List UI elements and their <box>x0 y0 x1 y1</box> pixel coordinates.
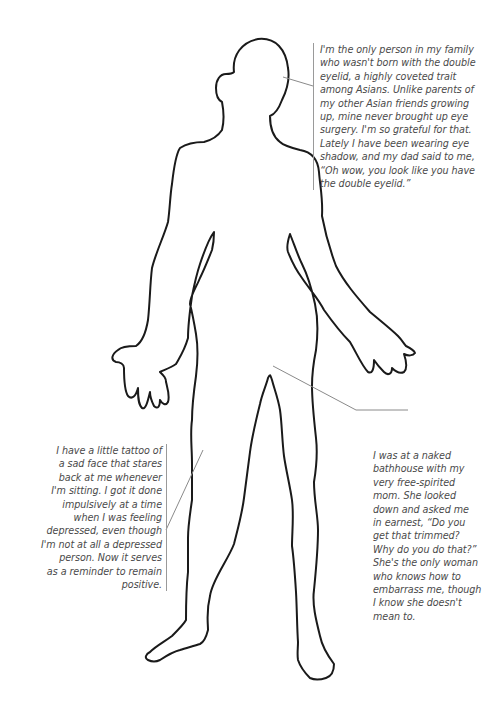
annotation-line: the double eyelid.” <box>320 177 502 190</box>
annotation-line: positive. <box>20 578 162 591</box>
annotation-line: back at me whenever <box>20 471 162 484</box>
annotation-line: mom. She looked <box>373 489 498 502</box>
annotation-line: when I was feeling <box>20 511 162 524</box>
annotation-line: in earnest, “Do you <box>373 516 498 529</box>
annotation-line: I was at a naked <box>373 449 498 462</box>
leader-line-tattoo <box>166 450 203 530</box>
annotation-line: among Asians. Unlike parents of <box>320 83 502 96</box>
annotation-line: depressed, even though <box>20 524 162 537</box>
annotation-line: I'm the only person in my family <box>320 43 502 56</box>
annotation-line: “Oh wow, you look like you have <box>320 164 502 177</box>
annotation-line: shadow, and my dad said to me, <box>320 150 502 163</box>
annotation-line: surgery. I'm so grateful for that. <box>320 123 502 136</box>
leader-line-bathhouse-diagonal <box>273 366 356 410</box>
annotation-eyelid: I'm the only person in my family who was… <box>313 43 502 190</box>
annotation-line: who wasn't born with the double <box>320 56 502 69</box>
annotation-line: I have a little tattoo of <box>20 444 162 457</box>
annotation-line: very free-spirited <box>373 476 498 489</box>
annotation-line: up, mine never brought up eye <box>320 110 502 123</box>
annotation-line: down and asked me <box>373 503 498 516</box>
annotation-line: I'm sitting. I got it done <box>20 484 162 497</box>
annotation-line: get that trimmed? <box>373 529 498 542</box>
annotation-line: who knows how to <box>373 570 498 583</box>
annotation-line: mean to. <box>373 610 498 623</box>
annotation-line: She's the only woman <box>373 556 498 569</box>
annotation-line: eyelid, a highly coveted trait <box>320 70 502 83</box>
annotation-line: Lately I have been wearing eye <box>320 137 502 150</box>
annotation-line: Why do you do that?” <box>373 543 498 556</box>
annotation-line: I know she doesn't <box>373 596 498 609</box>
annotation-line: I'm not at all a depressed <box>20 538 162 551</box>
annotation-tattoo: I have a little tattoo of a sad face tha… <box>20 444 167 591</box>
annotation-bathhouse: I was at a naked bathhouse with my very … <box>373 449 498 623</box>
body-map-page: I'm the only person in my family who was… <box>0 0 502 717</box>
annotation-line: as a reminder to remain <box>20 565 162 578</box>
annotation-line: a sad face that stares <box>20 457 162 470</box>
annotation-line: bathhouse with my <box>373 462 498 475</box>
annotation-line: impulsively at a time <box>20 498 162 511</box>
annotation-line: embarrass me, though <box>373 583 498 596</box>
annotation-line: my other Asian friends growing <box>320 97 502 110</box>
annotation-line: person. Now it serves <box>20 551 162 564</box>
